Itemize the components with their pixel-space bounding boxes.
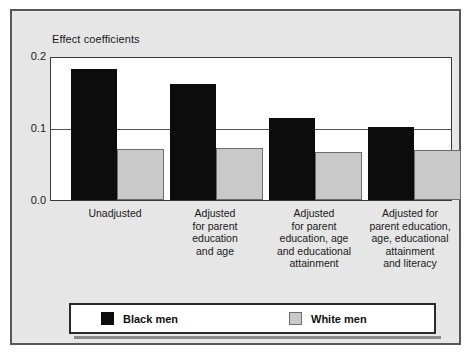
bar-gray-adj-parent-edu-age [216, 148, 263, 201]
figure: Effect coefficients 0.2 0.1 0.0 Unadju [0, 0, 473, 354]
x-axis-labels: Unadjusted Adjustedfor parenteducationan… [50, 207, 452, 285]
legend-swatch-black-icon [101, 312, 114, 325]
bar-gray-unadjusted [117, 149, 164, 200]
bar-black-unadjusted [71, 69, 117, 200]
y-axis-ticks: 0.2 0.1 0.0 [12, 11, 46, 354]
y-tick-1: 0.1 [12, 122, 46, 134]
y-tick-0: 0.2 [12, 50, 46, 62]
plot-area [50, 57, 452, 201]
bar-black-adj-parent-edu-age [170, 84, 216, 200]
bar-black-adj-parent-edu-age-attainment [269, 118, 315, 200]
legend-label-white-men: White men [311, 313, 367, 325]
legend-swatch-white-icon [289, 312, 302, 325]
y-tick-2: 0.0 [12, 194, 46, 206]
legend-label-black-men: Black men [123, 313, 178, 325]
legend-item-black-men: Black men [101, 312, 178, 325]
chart-frame: Effect coefficients 0.2 0.1 0.0 Unadju [10, 9, 461, 345]
bar-gray-adj-parent-edu-age-attainment-literacy [414, 150, 461, 200]
bar-black-adj-parent-edu-age-attainment-literacy [368, 127, 414, 200]
legend-item-white-men: White men [289, 312, 367, 325]
y-axis-title: Effect coefficients [52, 33, 140, 45]
legend: Black men White men [69, 303, 436, 334]
x-label-3: Adjusted forparent education,age, educat… [340, 207, 473, 270]
bar-gray-adj-parent-edu-age-attainment [315, 152, 362, 200]
